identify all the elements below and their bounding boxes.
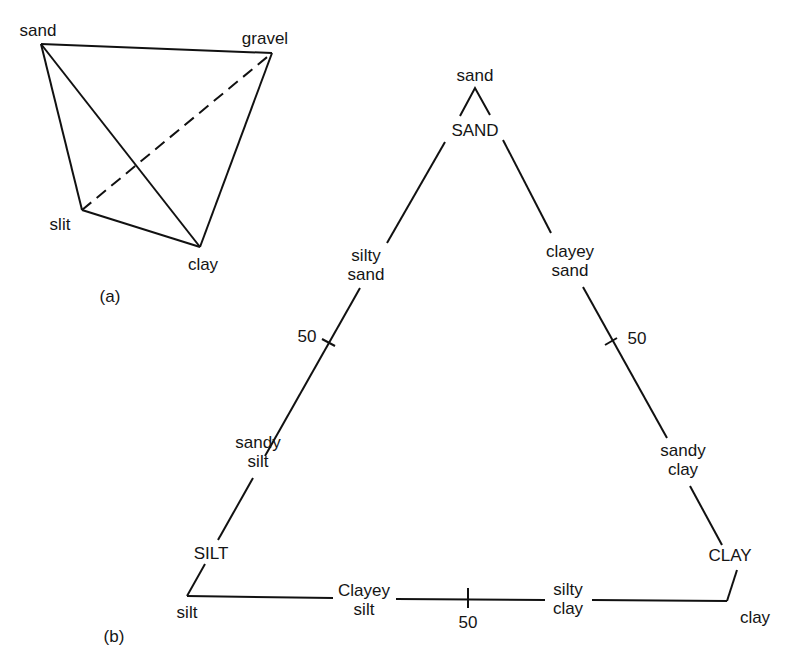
edge-silt-clay (82, 210, 200, 247)
edge-label-silty-sand: silty sand (348, 246, 385, 284)
corner-label-sand: sand (457, 66, 494, 85)
left-tick-label-50: 50 (298, 327, 317, 346)
tetrahedron-figure (41, 44, 272, 247)
bottom-edge-seg2 (396, 599, 545, 600)
corner-label-silt: silt (177, 603, 198, 622)
left-edge-seg4 (187, 564, 205, 596)
zone-label-silt: SILT (194, 544, 229, 563)
bottom-edge-seg3 (592, 600, 727, 601)
right-edge-seg1 (503, 140, 551, 233)
left-edge-seg1 (387, 142, 445, 243)
right-edge-seg3 (690, 486, 722, 545)
bottom-tick-label-50: 50 (459, 613, 478, 632)
zone-label-sand: SAND (451, 121, 498, 140)
edge-label-sandy-clay: sandy clay (660, 441, 705, 479)
left-edge-seg3 (218, 478, 253, 540)
left-edge-top (460, 88, 490, 116)
figure-a-caption: (a) (100, 287, 121, 306)
right-tick-label-50: 50 (628, 329, 647, 348)
edge-label-clayey-silt: Clayey silt (338, 581, 390, 619)
tetra-label-clay: clay (188, 255, 218, 274)
edge-label-clayey-sand: clayey sand (546, 242, 594, 280)
zone-label-clay: CLAY (708, 546, 751, 565)
tetra-label-silt: slit (50, 215, 71, 234)
figure-b-caption: (b) (104, 627, 125, 646)
corner-label-clay: clay (740, 608, 770, 627)
tetra-label-sand: sand (20, 21, 57, 40)
ternary-triangle (187, 88, 737, 608)
edge-label-sandy-silt: sandy silt (235, 433, 280, 471)
diagram-canvas (0, 0, 792, 672)
left-edge-seg2 (265, 288, 360, 456)
bottom-edge-seg1 (187, 596, 333, 598)
tetra-label-gravel: gravel (242, 29, 288, 48)
right-edge-seg2 (583, 287, 667, 438)
right-edge-seg4 (727, 570, 737, 601)
edge-sand-gravel (41, 44, 272, 53)
edge-label-silty-clay: silty clay (553, 580, 583, 618)
